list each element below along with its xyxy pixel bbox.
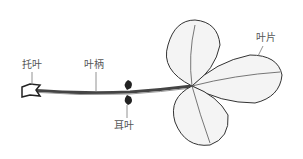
leaf-diagram: 托叶 叶柄 耳叶 叶片 [0,0,303,159]
auricle-top [125,80,132,90]
leaf-illustration [0,0,303,159]
petiole [28,86,192,93]
label-leaflet: 叶片 [256,33,276,43]
auricle-bottom [125,95,132,105]
label-stipule: 托叶 [22,60,42,70]
label-auricle: 耳叶 [114,121,134,131]
label-petiole: 叶柄 [84,60,104,70]
